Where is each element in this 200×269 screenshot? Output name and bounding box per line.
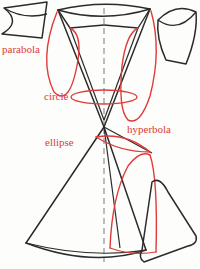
- lower-base-rim-inner: [26, 243, 146, 253]
- detached-parabola-wedge: [2, 2, 47, 38]
- label-parabola: parabola: [2, 44, 40, 55]
- detached-hyperbola-wedge: [158, 8, 197, 64]
- label-circle: circle: [44, 91, 68, 102]
- detached-hyperbola-wedge-crease: [158, 12, 196, 25]
- hyperbola-lower-branch-right: [150, 155, 156, 252]
- label-ellipse: ellipse: [45, 137, 74, 148]
- conic-sections-figure: parabola circle hyperbola ellipse: [0, 0, 200, 269]
- parabola-cut-rim-left: [58, 10, 104, 28]
- detached-hyperbola-piece: [140, 180, 196, 262]
- lower-base-rim: [26, 243, 146, 258]
- label-hyperbola: hyperbola: [127, 124, 171, 135]
- parabola-curve: [47, 12, 79, 96]
